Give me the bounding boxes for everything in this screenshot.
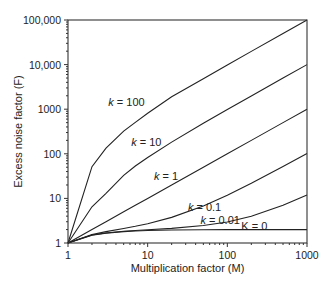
x-tick-label: 1000	[295, 249, 319, 261]
x-axis-tick-labels: 1101001000	[65, 249, 319, 261]
curve-label: K = 0	[241, 220, 267, 232]
x-tick-label: 10	[142, 249, 154, 261]
y-tick-label: 100,000	[23, 14, 61, 26]
curve-labels: k = 100k = 10k = 1k = 0.1k = 0.01K = 0	[108, 96, 267, 232]
x-axis-title: Multiplication factor (M)	[131, 262, 245, 274]
y-axis-title: Excess noise factor (F)	[12, 75, 24, 187]
curve-label: k = 10	[131, 136, 161, 148]
curve-label: k = 0.1	[188, 201, 221, 213]
curve-label: k = 100	[108, 96, 144, 108]
curve-k10	[68, 65, 307, 243]
curve-label: k = 1	[154, 170, 178, 182]
curve-k1	[68, 109, 307, 243]
excess-noise-chart: 110100100010,000100,000 1101001000 k = 1…	[0, 0, 335, 288]
x-tick-label: 100	[219, 249, 237, 261]
y-axis-tick-labels: 110100100010,000100,000	[23, 14, 61, 249]
y-tick-label: 1	[55, 237, 61, 249]
y-tick-label: 1000	[38, 103, 62, 115]
y-tick-label: 10	[49, 192, 61, 204]
y-tick-label: 100	[43, 148, 61, 160]
y-tick-label: 10,000	[29, 59, 61, 71]
curve-label: k = 0.01	[200, 214, 239, 226]
x-tick-label: 1	[65, 249, 71, 261]
